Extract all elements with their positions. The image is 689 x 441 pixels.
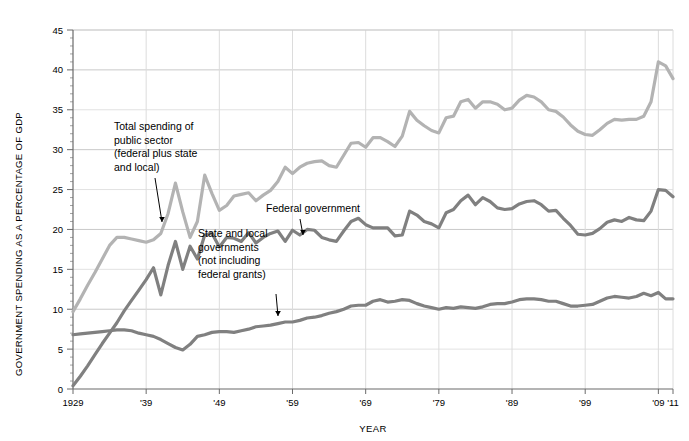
- annotation-text-line: State and local: [198, 227, 267, 239]
- y-tick-label-10: 10: [52, 304, 63, 315]
- x-tick-label-1929: 1929: [62, 397, 83, 408]
- x-axis-ticks-group: 1929'39'49'59'69'79'89'99'09'11: [62, 389, 678, 408]
- gridlines-group: [73, 30, 673, 389]
- x-tick-label-1959: '59: [286, 397, 298, 408]
- x-tick-label-1979: '79: [433, 397, 445, 408]
- x-tick-label-1989: '89: [506, 397, 518, 408]
- annotation-text-line: Federal government: [266, 202, 360, 214]
- annotation-text-line: governments: [198, 241, 259, 253]
- x-tick-label-2011: '11: [667, 397, 679, 408]
- series-line-0: [73, 62, 673, 312]
- annotation-text-line: (not including: [198, 254, 261, 266]
- chart-container: 051015202530354045 1929'39'49'59'69'79'8…: [0, 0, 689, 441]
- x-tick-label-1939: '39: [140, 397, 152, 408]
- government-spending-line-chart: 051015202530354045 1929'39'49'59'69'79'8…: [0, 0, 689, 441]
- y-axis-title: GOVERNMENT SPENDING AS A PERCENTAGE OF G…: [13, 112, 24, 376]
- x-tick-label-1949: '49: [213, 397, 225, 408]
- annotation-text-line: (federal plus state: [114, 147, 198, 159]
- series-line-2: [73, 292, 673, 349]
- x-tick-label-1969: '69: [359, 397, 371, 408]
- annotation-text-line: and local): [114, 161, 160, 173]
- y-tick-label-5: 5: [58, 344, 63, 355]
- y-tick-label-15: 15: [52, 264, 63, 275]
- y-tick-label-35: 35: [52, 104, 63, 115]
- annotation-total-spending: Total spending ofpublic sector(federal p…: [114, 120, 198, 222]
- annotation-state-and-local: State and localgovernments(not including…: [198, 227, 281, 316]
- y-tick-label-25: 25: [52, 184, 63, 195]
- y-tick-label-40: 40: [52, 64, 63, 75]
- annotation-text-line: Total spending of: [114, 120, 193, 132]
- y-tick-label-0: 0: [58, 384, 63, 395]
- x-tick-label-2009: '09: [652, 397, 664, 408]
- annotation-arrowhead: [275, 311, 281, 316]
- annotation-text-line: public sector: [114, 134, 173, 146]
- y-tick-label-20: 20: [52, 224, 63, 235]
- data-series-group: [73, 62, 673, 386]
- y-tick-label-30: 30: [52, 144, 63, 155]
- annotation-text-line: federal grants): [198, 268, 266, 280]
- annotation-leader-line: [155, 178, 162, 222]
- x-axis-title: YEAR: [359, 423, 386, 434]
- y-axis-ticks-group: 051015202530354045: [52, 25, 73, 395]
- y-tick-label-45: 45: [52, 25, 63, 36]
- x-tick-label-1999: '99: [579, 397, 591, 408]
